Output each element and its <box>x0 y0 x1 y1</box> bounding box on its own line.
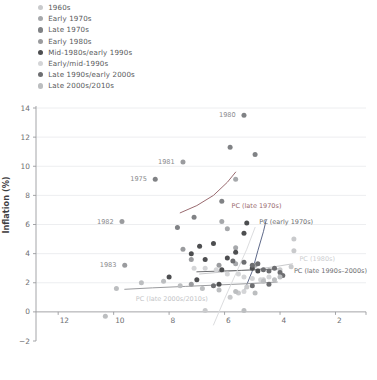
y-tick-label: 10 <box>8 162 30 171</box>
y-tick-label: 12 <box>8 133 30 142</box>
axis-lines <box>33 106 366 341</box>
x-tick-label: 12 <box>60 316 69 325</box>
curve-annotation: PC (late 2000s/2010s) <box>136 295 208 303</box>
curve-annotation: PC (late 1990s–2000s) <box>294 267 367 275</box>
data-point-label: 1983 <box>100 261 117 269</box>
curve-annotation: PC (early 1970s) <box>259 218 313 226</box>
y-tick-label: 2 <box>8 278 30 287</box>
gridlines <box>36 108 366 312</box>
y-tick-label: 14 <box>8 104 30 113</box>
x-tick-label: 6 <box>226 316 231 325</box>
legend-item[interactable]: Mid-1980s/early 1990s <box>38 47 278 58</box>
legend-item-label: Early 1970s <box>48 13 91 24</box>
legend-item[interactable]: Late 1970s <box>38 24 278 35</box>
legend-item[interactable]: Early/mid-1990s <box>38 58 278 69</box>
legend-swatch-icon <box>38 61 43 66</box>
data-point-label: 1980 <box>219 111 236 119</box>
legend-item-label: Late 1990s/early 2000s <box>48 69 135 80</box>
legend-swatch-icon <box>38 83 43 88</box>
x-tick-label: 10 <box>115 316 124 325</box>
y-tick-label: 6 <box>8 220 30 229</box>
legend-item-label: Late 1970s <box>48 24 89 35</box>
legend-item-label: Mid-1980s/early 1990s <box>48 47 132 58</box>
data-point-label: 1982 <box>97 218 114 226</box>
x-tick-label: 2 <box>337 316 342 325</box>
legend-item[interactable]: Early 1980s <box>38 36 278 47</box>
legend-swatch-icon <box>38 27 43 32</box>
x-tick-label: 4 <box>282 316 287 325</box>
y-tick-label: 0 <box>8 307 30 316</box>
curve-annotation: PC (late 1970s) <box>232 202 282 210</box>
data-point-label: 1975 <box>130 175 147 183</box>
legend-item-label: Late 2000s/2010s <box>48 80 114 91</box>
legend-item-label: Early 1980s <box>48 36 91 47</box>
legend-item[interactable]: Early 1970s <box>38 13 278 24</box>
y-tick-label: −2 <box>8 337 30 346</box>
legend-item[interactable]: Late 1990s/early 2000s <box>38 69 278 80</box>
legend-swatch-icon <box>38 50 43 55</box>
y-tick-label: 8 <box>8 191 30 200</box>
legend-swatch-icon <box>38 72 43 77</box>
legend-swatch-icon <box>38 16 43 21</box>
data-points <box>103 113 297 319</box>
legend-swatch-icon <box>38 39 43 44</box>
y-tick-label: 4 <box>8 249 30 258</box>
legend-item[interactable]: 1960s <box>38 2 278 13</box>
legend-item-label: Early/mid-1990s <box>48 58 108 69</box>
legend-swatch-icon <box>38 5 43 10</box>
phillips-curve-chart: 1960sEarly 1970sLate 1970sEarly 1980sMid… <box>0 0 377 380</box>
curve-annotation: PC (1980s) <box>299 255 335 263</box>
x-tick-label: 8 <box>171 316 176 325</box>
legend-item[interactable]: Late 2000s/2010s <box>38 80 278 91</box>
legend: 1960sEarly 1970sLate 1970sEarly 1980sMid… <box>38 2 278 92</box>
legend-item-label: 1960s <box>48 2 70 13</box>
data-point-label: 1981 <box>158 158 175 166</box>
